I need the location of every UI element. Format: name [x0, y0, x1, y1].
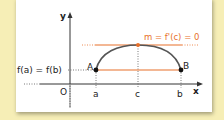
function-curve [96, 45, 181, 70]
tick-c-label: c [135, 89, 140, 99]
y-axis-label: y [60, 11, 66, 21]
point-b-label: B [183, 61, 189, 71]
point-c-max [136, 43, 140, 47]
point-a-label: A [87, 62, 94, 72]
origin-label: O [60, 87, 67, 97]
point-a [94, 68, 99, 73]
rolle-theorem-diagram: y x O a c b A B f(a) = f(b) m = f'(c) = … [0, 0, 224, 120]
fa-equals-fb-label: f(a) = f(b) [17, 65, 62, 75]
x-axis-label: x [193, 86, 199, 96]
tick-b-label: b [177, 89, 183, 99]
tick-a-label: a [93, 89, 99, 99]
tangent-slope-label: m = f'(c) = 0 [144, 32, 199, 42]
y-axis-arrow-icon [68, 12, 73, 18]
